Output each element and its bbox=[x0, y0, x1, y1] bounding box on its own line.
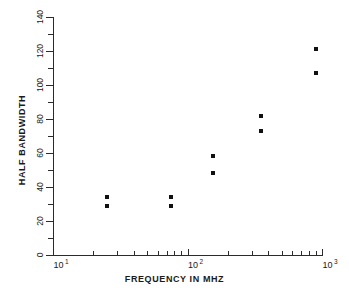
x-tick-minor bbox=[158, 251, 159, 255]
y-tick-minor bbox=[48, 68, 53, 69]
x-tick-minor bbox=[167, 251, 168, 255]
x-tick-minor bbox=[147, 251, 148, 255]
x-tick-minor bbox=[268, 251, 269, 255]
x-tick-major bbox=[322, 249, 323, 255]
x-tick-minor bbox=[301, 251, 302, 255]
y-tick-label: 20 bbox=[35, 216, 45, 225]
x-tick-label: 103 bbox=[322, 258, 337, 270]
data-point bbox=[259, 129, 263, 133]
x-tick-minor bbox=[181, 251, 182, 255]
x-tick-minor bbox=[134, 251, 135, 255]
y-tick-major bbox=[46, 17, 53, 18]
data-point bbox=[105, 204, 109, 208]
x-tick-minor bbox=[292, 251, 293, 255]
y-tick-minor bbox=[48, 238, 53, 239]
y-tick-label: 100 bbox=[35, 78, 45, 92]
y-tick-major bbox=[46, 51, 53, 52]
x-tick-minor bbox=[252, 251, 253, 255]
y-tick-minor bbox=[48, 136, 53, 137]
y-tick-label: 80 bbox=[35, 114, 45, 123]
data-point bbox=[211, 154, 215, 158]
y-tick-major bbox=[46, 221, 53, 222]
x-tick-major bbox=[188, 249, 189, 255]
x-axis-title: FREQUENCY IN MHZ bbox=[0, 274, 349, 284]
y-tick-major bbox=[46, 187, 53, 188]
x-tick-minor bbox=[228, 251, 229, 255]
x-tick-label: 101 bbox=[53, 258, 68, 270]
y-tick-major bbox=[46, 153, 53, 154]
y-tick-minor bbox=[48, 102, 53, 103]
y-tick-label: 0 bbox=[35, 253, 45, 258]
y-tick-label: 40 bbox=[35, 182, 45, 191]
y-tick-minor bbox=[48, 204, 53, 205]
y-tick-minor bbox=[48, 170, 53, 171]
data-point bbox=[105, 195, 109, 199]
x-tick-minor bbox=[282, 251, 283, 255]
chart-page: 020406080100120140 101102103 HALF BANDWI… bbox=[0, 0, 349, 297]
data-point bbox=[169, 204, 173, 208]
y-tick-label: 120 bbox=[35, 44, 45, 58]
y-tick-major bbox=[46, 119, 53, 120]
x-tick-major bbox=[53, 249, 54, 255]
x-tick-minor bbox=[117, 251, 118, 255]
data-point bbox=[314, 71, 318, 75]
x-tick-minor bbox=[93, 251, 94, 255]
data-point bbox=[314, 47, 318, 51]
y-tick-label: 140 bbox=[35, 10, 45, 24]
y-tick-minor bbox=[48, 34, 53, 35]
y-tick-major bbox=[46, 85, 53, 86]
x-tick-minor bbox=[316, 251, 317, 255]
y-tick-major bbox=[46, 255, 53, 256]
x-axis-line bbox=[53, 255, 323, 256]
y-axis-line bbox=[53, 17, 54, 256]
data-point bbox=[259, 114, 263, 118]
y-axis-title: HALF BANDWIDTH bbox=[17, 95, 27, 185]
y-tick-label: 60 bbox=[35, 148, 45, 157]
x-tick-label: 102 bbox=[188, 258, 203, 270]
x-tick-minor bbox=[174, 251, 175, 255]
x-tick-minor bbox=[309, 251, 310, 255]
data-point bbox=[211, 171, 215, 175]
data-point bbox=[169, 195, 173, 199]
